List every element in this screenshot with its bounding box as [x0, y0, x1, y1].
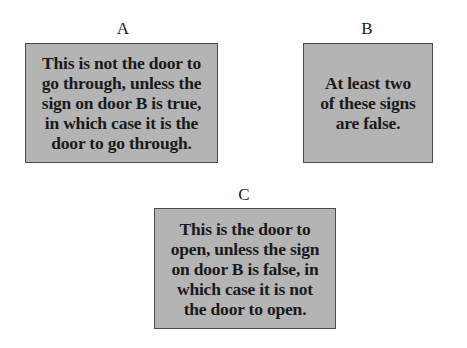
door-c-label: C [224, 185, 264, 205]
door-c-sign-text: This is the door to open, unless the sig… [171, 219, 319, 319]
door-a-sign: This is not the door to go through, unle… [25, 43, 218, 163]
door-b-label: B [347, 19, 387, 39]
door-b-sign-text: At least two of these signs are false. [320, 73, 415, 133]
sign-line: of these signs [320, 93, 415, 113]
sign-line: This is not the door to [42, 53, 202, 73]
door-c-sign: This is the door to open, unless the sig… [154, 208, 336, 329]
door-b-sign: At least two of these signs are false. [303, 43, 433, 163]
sign-line: sign on door B is true, [42, 93, 202, 113]
door-a-label: A [103, 19, 143, 39]
sign-line: the door to open. [171, 299, 319, 319]
sign-line: open, unless the sign [171, 239, 319, 259]
sign-line: which case it is not [171, 279, 319, 299]
sign-line: This is the door to [171, 219, 319, 239]
sign-line: At least two [320, 73, 415, 93]
sign-line: in which case it is the [42, 113, 202, 133]
sign-line: go through, unless the [42, 73, 202, 93]
sign-line: on door B is false, in [171, 259, 319, 279]
sign-line: are false. [320, 113, 415, 133]
door-a-sign-text: This is not the door to go through, unle… [42, 53, 202, 153]
sign-line: door to go through. [42, 133, 202, 153]
